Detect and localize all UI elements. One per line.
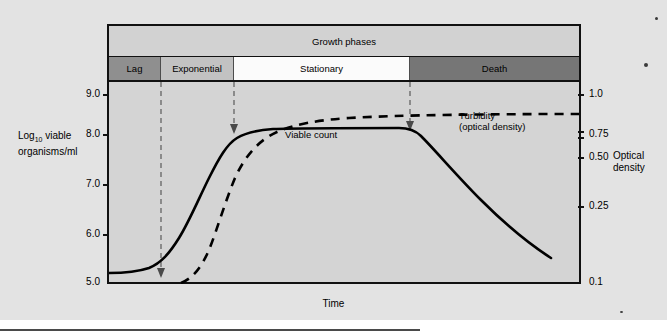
left-axis-title-post: viable (42, 130, 71, 141)
arrowhead-exponential-to-stationary (230, 124, 238, 134)
right-tick-0-25 (578, 206, 584, 208)
phase-band-exponential: Exponential (161, 57, 234, 80)
right-tick-0-75 (578, 131, 584, 133)
phase-label-death: Death (482, 63, 507, 74)
phase-band-row: Lag Exponential Stationary Death (109, 57, 579, 82)
scan-speck (620, 311, 623, 313)
right-tick-0-75b (578, 137, 584, 139)
x-axis-title-label: Time (323, 298, 345, 309)
phase-label-exponential: Exponential (172, 63, 222, 74)
right-tick-0-50 (578, 157, 584, 159)
phase-label-stationary: Stationary (300, 63, 343, 74)
phase-band-death: Death (410, 57, 579, 80)
turbidity-curve (181, 114, 579, 283)
right-tick-label-0-50: 0.50 (589, 151, 608, 162)
turbidity-annotation: Turbidity (optical density) (459, 110, 526, 132)
viable-count-curve (109, 128, 551, 273)
bottom-divider-rule (0, 329, 420, 331)
left-tick-9 (103, 94, 109, 96)
growth-curve-figure: Growth phases Lag Exponential Stationary… (0, 0, 667, 335)
left-tick-label-7: 7.0 (60, 178, 100, 189)
left-axis-title-line2: organisms/ml (18, 146, 77, 157)
left-tick-label-6: 6.0 (60, 228, 100, 239)
right-tick-label-1-0: 1.0 (589, 88, 603, 99)
left-tick-6 (103, 234, 109, 236)
right-tick-label-0-75: 0.75 (589, 128, 608, 139)
turbidity-annotation-line2: (optical density) (459, 121, 526, 132)
left-tick-label-5: 5.0 (60, 276, 100, 287)
phase-label-lag: Lag (127, 63, 143, 74)
right-axis-title-line1: Optical (613, 150, 644, 161)
arrowhead-lag-to-exponential (157, 268, 165, 278)
scan-speck (655, 17, 658, 20)
growth-phases-header-label: Growth phases (312, 36, 376, 47)
phase-band-stationary: Stationary (234, 57, 410, 80)
left-tick-8 (103, 134, 109, 136)
left-axis-title-pre: Log (18, 130, 35, 141)
right-axis-title-line2: density (613, 162, 645, 173)
x-axis-title: Time (0, 298, 667, 310)
viable-count-annotation-label: Viable count (285, 129, 337, 140)
left-axis-title: Log10 viable organisms/ml (18, 130, 98, 158)
right-tick-label-0-25: 0.25 (589, 200, 608, 211)
phase-band-lag: Lag (109, 57, 161, 80)
right-tick-label-0-1: 0.1 (589, 276, 603, 287)
turbidity-annotation-line1: Turbidity (459, 110, 495, 121)
right-axis-title: Optical density (613, 150, 667, 174)
viable-count-annotation: Viable count (285, 129, 337, 140)
right-tick-1-0 (578, 94, 584, 96)
left-tick-7 (103, 184, 109, 186)
scan-speck (644, 63, 648, 67)
growth-phases-header: Growth phases (109, 26, 579, 57)
left-tick-label-9: 9.0 (60, 88, 100, 99)
phase-boundary-arrows (157, 82, 414, 278)
